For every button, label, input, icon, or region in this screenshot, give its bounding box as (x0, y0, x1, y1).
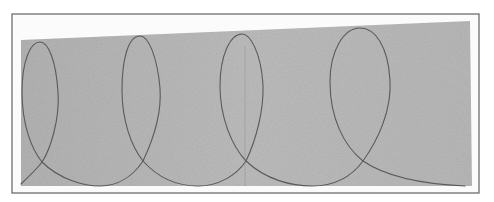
artwork-photo (0, 0, 494, 202)
artwork-svg (0, 0, 494, 202)
